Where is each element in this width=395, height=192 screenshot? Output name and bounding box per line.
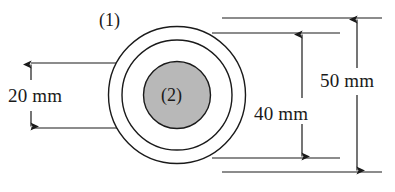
dimension-label-40mm: 40 mm bbox=[254, 103, 308, 125]
part-label-1: (1) bbox=[99, 10, 120, 31]
figure-container: (1) (2) 20 mm 40 mm 50 mm bbox=[0, 0, 395, 192]
dimension-label-20mm: 20 mm bbox=[8, 85, 62, 107]
dimension-label-50mm: 50 mm bbox=[320, 70, 374, 92]
part-label-2: (2) bbox=[161, 85, 182, 106]
